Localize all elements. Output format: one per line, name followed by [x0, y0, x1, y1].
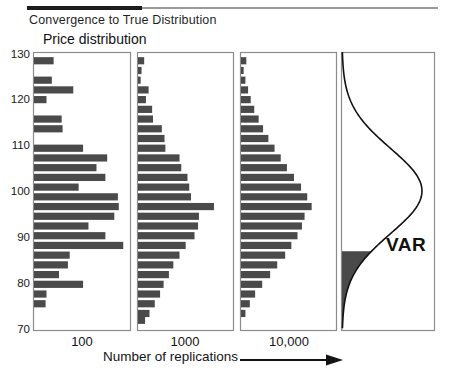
histogram-bar	[138, 261, 173, 268]
x-axis-title-text: Number of replications	[103, 349, 238, 364]
histogram-bar	[34, 300, 46, 307]
histogram-bar	[138, 232, 195, 239]
histogram-bar	[241, 135, 268, 142]
histogram-bar	[138, 184, 189, 191]
histogram-bar	[138, 193, 191, 200]
histogram-bar	[34, 125, 63, 132]
histogram-bar	[138, 310, 149, 317]
histogram-bar	[138, 213, 199, 220]
histogram-bar	[34, 184, 79, 191]
histogram-bar	[34, 193, 118, 200]
histogram-bar	[241, 184, 301, 191]
histogram-bar	[241, 271, 270, 278]
histogram-bar	[138, 300, 155, 307]
panel-frame	[34, 53, 131, 331]
panel-frame	[241, 53, 337, 331]
plot-area: 130 120 110 100 90 80 70 100 1000 10,000…	[0, 0, 451, 380]
histogram-bar	[138, 271, 169, 278]
histogram-100-replications	[34, 53, 131, 331]
histogram-bar	[138, 281, 164, 288]
histogram-bar	[241, 67, 244, 74]
histogram-bar	[34, 115, 62, 122]
x-axis-title: Number of replications	[103, 349, 238, 364]
histogram-bar	[138, 242, 186, 249]
histogram-bar	[241, 232, 298, 239]
histogram-bar	[138, 290, 160, 297]
histogram-bar	[241, 86, 248, 93]
histogram-bar	[241, 106, 254, 113]
histogram-bar	[241, 300, 250, 307]
histogram-bar	[34, 77, 52, 84]
panel-frame	[138, 53, 234, 331]
histogram-bar	[241, 57, 246, 64]
histogram-10000-replications	[241, 53, 337, 331]
histogram-bar	[138, 174, 187, 181]
histogram-bar	[138, 203, 214, 210]
histogram-bar	[34, 222, 88, 229]
histogram-bar	[138, 57, 144, 64]
histogram-bar	[241, 310, 245, 317]
histogram-bar	[34, 96, 46, 103]
histogram-bar	[241, 96, 251, 103]
histogram-bar	[241, 145, 275, 152]
histogram-bar	[241, 193, 307, 200]
histogram-bar	[241, 242, 291, 249]
histogram-bar	[241, 77, 245, 84]
histogram-bar	[34, 213, 114, 220]
true-distribution-curve	[342, 52, 435, 331]
histogram-bar	[241, 125, 263, 132]
histogram-bar	[34, 154, 107, 161]
histogram-bar	[34, 290, 46, 297]
histogram-bar	[138, 222, 198, 229]
histogram-bar	[241, 164, 287, 171]
histogram-bar	[34, 232, 105, 239]
histogram-bar	[138, 145, 165, 152]
histogram-bar	[34, 174, 105, 181]
histogram-bar	[241, 252, 285, 259]
histogram-bar	[138, 67, 142, 74]
histogram-bar	[241, 203, 312, 210]
x-axis-arrow-icon	[240, 352, 350, 368]
histogram-bar	[241, 281, 262, 288]
histogram-bar	[241, 222, 302, 229]
histogram-bar	[34, 203, 119, 210]
histogram-bar	[138, 252, 180, 259]
histogram-bar	[34, 57, 54, 64]
histogram-bar	[34, 164, 96, 171]
histogram-bar	[241, 261, 277, 268]
histogram-bar	[34, 145, 83, 152]
histogram-bar	[138, 96, 146, 103]
histogram-1000-replications	[138, 53, 234, 331]
histogram-bar	[241, 174, 294, 181]
histogram-bar	[138, 154, 180, 161]
histogram-bar	[138, 115, 153, 122]
histogram-bar	[138, 317, 145, 324]
histogram-bar	[34, 281, 83, 288]
figure-root: Convergence to True Distribution Price d…	[0, 0, 451, 380]
histogram-bar	[34, 261, 68, 268]
histogram-bar	[138, 164, 181, 171]
histogram-bar	[138, 135, 165, 142]
histogram-bar	[34, 252, 70, 259]
histogram-bar	[34, 271, 59, 278]
histogram-bar	[138, 86, 149, 93]
panel-frame	[342, 53, 435, 331]
histogram-bar	[138, 125, 162, 132]
panels-svg	[0, 0, 451, 380]
histogram-bar	[138, 106, 152, 113]
histogram-bar	[34, 86, 73, 93]
histogram-bar	[241, 213, 305, 220]
histogram-bar	[241, 290, 255, 297]
histogram-bar	[34, 242, 123, 249]
var-label: VAR	[386, 234, 426, 256]
histogram-bar	[138, 77, 141, 84]
histogram-bar	[241, 115, 259, 122]
histogram-bar	[241, 154, 281, 161]
